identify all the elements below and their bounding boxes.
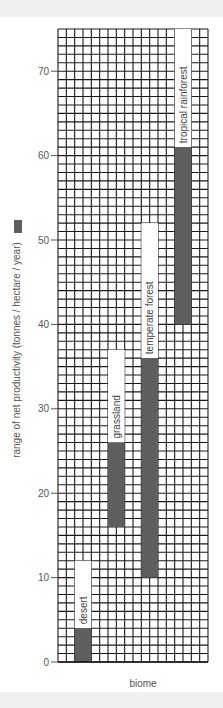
y-tick-label: 30 (38, 403, 50, 414)
legend-swatch (14, 220, 22, 233)
y-tick-label: 20 (38, 488, 50, 499)
bar-temperate-forest (141, 358, 158, 577)
y-axis-title-group: range of net productivity (tonnes / hect… (11, 242, 22, 458)
productivity-range-chart: desertgrasslandtemperate foresttropical … (0, 0, 223, 708)
bar-desert (75, 628, 92, 662)
bar-label-temperate-forest: temperate forest (144, 281, 155, 354)
y-tick-label: 40 (38, 319, 50, 330)
bar-tropical-rainforest (175, 147, 192, 324)
x-axis-title: biome (129, 678, 157, 689)
y-tick-label: 0 (43, 657, 49, 668)
y-tick-label: 70 (38, 66, 50, 77)
y-tick-label: 50 (38, 235, 50, 246)
bar-label-grassland: grassland (111, 395, 122, 438)
y-tick-label: 60 (38, 150, 50, 161)
bar-grassland (108, 443, 125, 527)
y-tick-label: 10 (38, 572, 50, 583)
bar-label-desert: desert (78, 596, 89, 624)
y-axis-title: range of net productivity (tonnes / hect… (11, 242, 22, 458)
bar-label-tropical-rainforest: tropical rainforest (178, 66, 189, 143)
